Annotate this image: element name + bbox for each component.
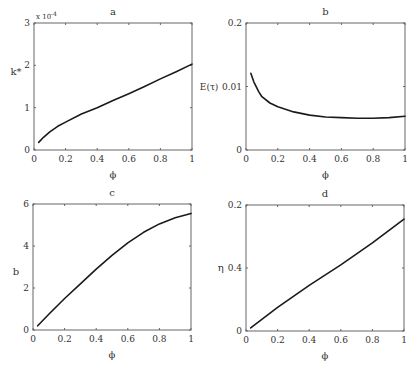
y-tick-label: 0.4 bbox=[228, 263, 243, 273]
x-tick-label: 0.2 bbox=[57, 334, 71, 344]
data-line bbox=[251, 219, 404, 328]
subplot-a: 00.20.40.60.810123aϕk*x 10-4 bbox=[10, 6, 194, 180]
x-axis-label: ϕ bbox=[322, 350, 329, 361]
x-tick-label: 0.6 bbox=[334, 154, 349, 164]
y-tick-label: 0 bbox=[236, 326, 242, 336]
x-tick-label: 0.6 bbox=[121, 334, 136, 344]
plot-frame bbox=[34, 23, 192, 150]
x-tick-label: 0.8 bbox=[152, 334, 167, 344]
y-tick-label: 6 bbox=[23, 199, 29, 209]
y-axis-label: k* bbox=[10, 66, 21, 77]
x-tick-label: 0 bbox=[243, 154, 249, 164]
subplot-b: 00.20.40.60.8100.010.2bϕE(τ) bbox=[200, 6, 408, 180]
x-tick-label: 1 bbox=[402, 154, 408, 164]
x-tick-label: 0.4 bbox=[302, 335, 317, 345]
y-tick-label: 3 bbox=[24, 18, 30, 28]
x-tick-label: 0.8 bbox=[365, 335, 380, 345]
x-tick-label: 1 bbox=[189, 154, 195, 164]
y-axis-label: E(τ) bbox=[200, 82, 219, 92]
x-tick-label: 0.2 bbox=[58, 154, 72, 164]
y-tick-label: 0 bbox=[24, 145, 30, 155]
y-tick-label: 1 bbox=[24, 103, 30, 113]
x-tick-label: 0.4 bbox=[90, 154, 105, 164]
x-tick-label: 0 bbox=[243, 335, 249, 345]
subplot-title: b bbox=[322, 6, 328, 17]
x-tick-label: 0.6 bbox=[334, 335, 349, 345]
subplot-title: c bbox=[109, 187, 115, 198]
x-tick-label: 0.8 bbox=[366, 154, 381, 164]
x-tick-label: 0.4 bbox=[302, 154, 317, 164]
x-axis-label: ϕ bbox=[109, 349, 116, 360]
subplot-title: a bbox=[110, 6, 116, 17]
y-tick-label: 2 bbox=[23, 283, 29, 293]
x-tick-label: 0.2 bbox=[270, 335, 284, 345]
y-axis-label: η bbox=[218, 262, 224, 273]
y-tick-label: 0 bbox=[23, 325, 29, 335]
subplot-title: d bbox=[322, 188, 329, 199]
x-tick-label: 0.6 bbox=[122, 154, 137, 164]
plot-frame bbox=[33, 204, 191, 330]
y-tick-label: 2 bbox=[24, 60, 30, 70]
x-axis-label: ϕ bbox=[110, 169, 117, 180]
y-tick-label: 0.2 bbox=[228, 18, 242, 28]
y-axis-label: b bbox=[13, 266, 19, 277]
x-tick-label: 0.4 bbox=[89, 334, 104, 344]
x-tick-label: 1 bbox=[401, 335, 407, 345]
y-tick-label: 0.01 bbox=[222, 82, 242, 92]
y-multiplier-label: x 10-4 bbox=[36, 10, 57, 21]
data-line bbox=[39, 64, 192, 142]
x-tick-label: 0.2 bbox=[271, 154, 285, 164]
subplot-c: 00.20.40.60.810246cϕb bbox=[13, 187, 194, 360]
x-axis-label: ϕ bbox=[322, 169, 329, 180]
data-line bbox=[38, 213, 191, 325]
plot-frame bbox=[246, 23, 405, 150]
y-tick-label: 4 bbox=[23, 241, 29, 251]
x-tick-label: 0 bbox=[30, 334, 36, 344]
x-tick-label: 0.8 bbox=[153, 154, 168, 164]
x-tick-label: 1 bbox=[188, 334, 194, 344]
figure: 00.20.40.60.810123aϕk*x 10-4 00.20.40.60… bbox=[0, 0, 416, 367]
subplot-d: 00.20.40.60.8100.40.2dϕη bbox=[218, 188, 407, 361]
data-line bbox=[251, 73, 405, 118]
y-tick-label: 0.2 bbox=[228, 200, 242, 210]
y-tick-label: 0 bbox=[236, 145, 242, 155]
plot-frame bbox=[246, 205, 404, 331]
x-tick-label: 0 bbox=[31, 154, 37, 164]
